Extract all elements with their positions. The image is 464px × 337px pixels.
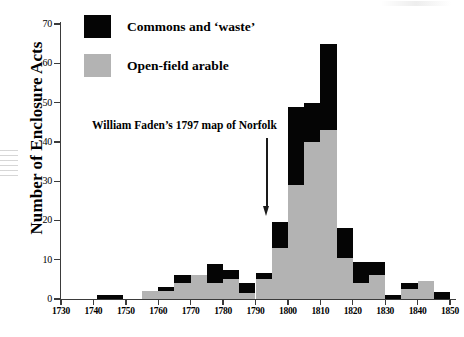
bar-1805-1810 — [304, 103, 320, 299]
x-tick-1760 — [158, 299, 159, 305]
bar-segment-commons — [207, 264, 223, 284]
bar-segment-commons — [174, 275, 190, 283]
bar-segment-open-field — [142, 291, 158, 299]
bar-1790-1795 — [256, 273, 272, 299]
bar-1825-1830 — [369, 262, 385, 299]
x-tick-1770 — [190, 299, 191, 305]
arrow-head — [263, 206, 269, 216]
bar-segment-open-field — [174, 283, 190, 299]
y-tick-label-10: 10 — [30, 255, 52, 265]
x-tick-1820 — [352, 299, 353, 305]
bar-1765-1770 — [174, 275, 190, 299]
y-tick-label-70: 70 — [30, 19, 52, 29]
legend-item-commons: Commons and ‘waste’ — [84, 15, 255, 38]
y-tick-label-60: 60 — [30, 58, 52, 68]
x-tick-1800 — [287, 299, 288, 305]
bar-1755-1760 — [142, 291, 158, 299]
annotation-arrow-icon — [262, 138, 272, 218]
y-tick-30 — [54, 181, 61, 182]
bar-segment-open-field — [158, 291, 174, 299]
bar-1775-1780 — [207, 264, 223, 299]
y-tick-label-30: 30 — [30, 176, 52, 186]
bar-1785-1790 — [239, 283, 255, 299]
y-tick-label-wrap-10: 10 — [28, 255, 52, 265]
x-tick-1850 — [449, 299, 450, 305]
y-tick-label-wrap-20: 20 — [28, 215, 52, 225]
bar-segment-open-field — [337, 258, 353, 299]
y-tick-label-wrap-70: 70 — [28, 19, 52, 29]
bar-segment-commons — [337, 228, 353, 257]
y-tick-70 — [54, 23, 61, 24]
bar-1820-1825 — [353, 262, 369, 299]
x-tick-1750 — [125, 299, 126, 305]
bar-1795-1800 — [272, 222, 288, 299]
bar-segment-open-field — [418, 281, 434, 299]
y-tick-label-wrap-50: 50 — [28, 98, 52, 108]
legend-label-open-field: Open-field arable — [127, 59, 229, 73]
y-tick-20 — [54, 220, 61, 221]
bar-segment-open-field — [256, 279, 272, 299]
annotation-text: William Faden’s 1797 map of Norfolk — [92, 119, 277, 132]
bar-segment-commons — [385, 295, 401, 299]
bar-1760-1765 — [158, 287, 174, 299]
x-tick-1730 — [60, 299, 61, 305]
bar-segment-commons — [97, 295, 123, 299]
bar-segment-commons — [369, 262, 385, 276]
legend-item-open-field: Open-field arable — [84, 54, 229, 77]
arrow-shaft — [266, 138, 267, 208]
y-tick-60 — [54, 63, 61, 64]
y-tick-label-wrap-40: 40 — [28, 137, 52, 147]
bar-segment-open-field — [191, 275, 207, 299]
y-tick-label-20: 20 — [30, 215, 52, 225]
bar-1770-1775 — [191, 275, 207, 299]
bar-segment-commons — [401, 283, 417, 289]
scan-artifact-top-right — [381, 1, 451, 6]
bar-segment-commons — [320, 44, 336, 130]
bar-1741-1749 — [97, 295, 123, 299]
bar-segment-open-field — [223, 279, 239, 299]
bar-segment-commons — [158, 287, 174, 291]
x-tick-1790 — [255, 299, 256, 305]
x-tick-1840 — [417, 299, 418, 305]
y-tick-label-0: 0 — [30, 294, 52, 304]
y-tick-label-wrap-30: 30 — [28, 176, 52, 186]
bar-segment-commons — [434, 292, 450, 299]
bar-segment-commons — [353, 262, 369, 284]
legend-swatch-open-field — [84, 54, 111, 77]
bar-segment-commons — [223, 270, 239, 280]
y-tick-10 — [54, 259, 61, 260]
legend-swatch-commons — [84, 15, 111, 38]
y-tick-label-40: 40 — [30, 137, 52, 147]
bar-segment-open-field — [369, 275, 385, 299]
y-tick-label-wrap-0: 0 — [28, 294, 52, 304]
bar-segment-open-field — [272, 248, 288, 299]
x-tick-label-1850: 1850 — [430, 306, 464, 317]
x-tick-1740 — [93, 299, 94, 305]
y-tick-label-wrap-60: 60 — [28, 58, 52, 68]
x-tick-1780 — [222, 299, 223, 305]
bar-segment-open-field — [353, 283, 369, 299]
y-tick-50 — [54, 102, 61, 103]
bar-1800-1805 — [288, 107, 304, 300]
bar-segment-open-field — [401, 289, 417, 299]
bar-1845-1850 — [434, 292, 450, 299]
bar-segment-commons — [288, 107, 304, 186]
bar-segment-open-field — [320, 130, 336, 299]
y-tick-40 — [54, 141, 61, 142]
bar-1830-1835 — [385, 295, 401, 299]
bar-segment-commons — [272, 222, 288, 248]
bar-segment-open-field — [207, 283, 223, 299]
y-tick-label-50: 50 — [30, 98, 52, 108]
bar-segment-commons — [256, 273, 272, 279]
bar-segment-open-field — [288, 185, 304, 299]
bar-segment-open-field — [239, 293, 255, 299]
bar-1840-1845 — [418, 281, 434, 299]
bar-1815-1820 — [337, 228, 353, 299]
bar-1810-1815 — [320, 44, 336, 299]
x-tick-1830 — [385, 299, 386, 305]
bar-1835-1840 — [401, 283, 417, 299]
legend-label-commons: Commons and ‘waste’ — [127, 20, 255, 34]
bar-segment-open-field — [304, 142, 320, 299]
bar-1780-1785 — [223, 270, 239, 299]
bar-segment-commons — [239, 283, 255, 293]
